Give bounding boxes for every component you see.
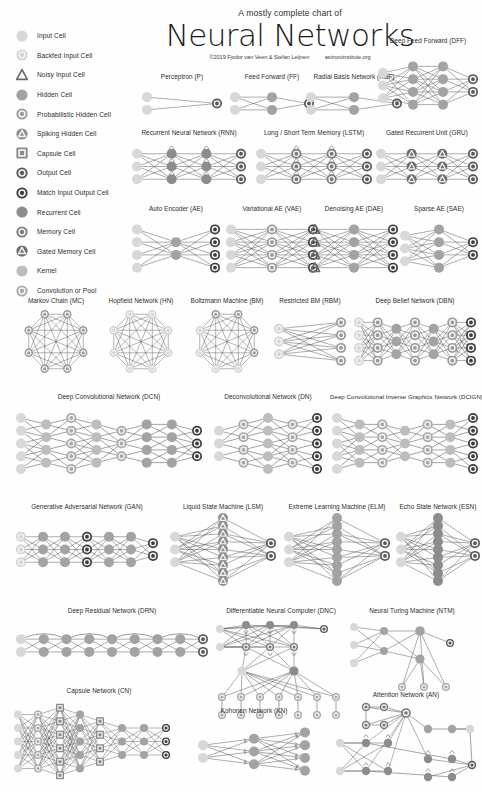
network-diagram [374, 137, 480, 196]
legend-item-noisy: Noisy Input Cell [14, 65, 144, 85]
network-cn: Capsule Network (CN) [10, 686, 188, 788]
network-title: Generative Adversarial Network (GAN) [14, 502, 160, 511]
network-diagram [196, 715, 312, 788]
network-p: Perceptron (P) [140, 72, 224, 126]
output-cell-icon [14, 165, 30, 181]
network-title: Variational AE (VAE) [224, 204, 320, 213]
memory-cell-icon [14, 224, 30, 240]
network-dbn: Deep Belief Network (DBN) [352, 296, 478, 378]
backfed-cell-icon [14, 47, 30, 63]
network-diagram [352, 305, 478, 378]
network-rbm: Restricted BM (RBM) [272, 296, 348, 378]
network-diagram [130, 213, 222, 284]
gated-cell-icon [14, 243, 30, 259]
network-title: Deep Convolutional Network (DCN) [14, 392, 204, 401]
network-elm: Extreme Learning Machine (ELM) [282, 502, 392, 588]
network-kn: Kohonen Network (KN) [196, 706, 312, 788]
network-title: Boltzmann Machine (BM) [184, 296, 270, 305]
network-diagram [330, 401, 480, 486]
network-rnn: Recurrent Neural Network (RNN) [130, 128, 248, 196]
network-title: Deconvolutional Network (DN) [212, 392, 324, 401]
network-diagram [376, 45, 480, 126]
match-cell-icon [14, 185, 30, 201]
chart-canvas: A mostly complete chart of Neural Networ… [0, 0, 482, 792]
network-diagram [130, 137, 248, 196]
network-title: Sparse AE (SAE) [398, 204, 480, 213]
network-dcign: Deep Convolutional Inverse Graphics Netw… [330, 392, 480, 486]
prob_hidden-cell-icon [14, 106, 30, 122]
network-title: Deep Belief Network (DBN) [352, 296, 478, 305]
network-title: Feed Forward (FF) [228, 72, 316, 81]
network-title: Liquid State Machine (LSM) [168, 502, 278, 511]
copyright-text: ©2019 Fjodor van Veen & Stefan Leijnen [209, 54, 309, 60]
network-diagram [398, 213, 480, 284]
hidden-cell-icon [14, 87, 30, 103]
network-hn: Hopfield Network (HN) [98, 296, 184, 378]
network-gan: Generative Adversarial Network (GAN) [14, 502, 160, 588]
legend-item-label: Memory Cell [37, 228, 75, 235]
network-diagram [272, 305, 348, 378]
network-lstm: Long / Short Term Memory (LSTM) [254, 128, 374, 196]
network-diagram [282, 511, 392, 588]
network-dnc: Differentiable Neural Computer (DNC) [212, 606, 350, 716]
network-dff: Deep Feed Forward (DFF) [376, 36, 480, 126]
network-title: Hopfield Network (HN) [98, 296, 184, 305]
network-title: Neural Turing Machine (NTM) [346, 606, 478, 615]
network-title: Capsule Network (CN) [10, 686, 188, 695]
network-title: Markov Chain (MC) [14, 296, 98, 305]
network-mc: Markov Chain (MC) [14, 296, 98, 378]
legend-item-label: Backfed Input Cell [37, 52, 92, 59]
network-sae: Sparse AE (SAE) [398, 204, 480, 284]
network-esn: Echo State Network (ESN) [394, 502, 482, 588]
network-an: Attention Network (AN) [332, 690, 480, 788]
legend-item-spiking: Spiking Hidden Cell [14, 124, 144, 144]
network-diagram [332, 699, 480, 788]
network-title: Deep Feed Forward (DFF) [376, 36, 480, 45]
network-dcn: Deep Convolutional Network (DCN) [14, 392, 204, 486]
legend-item-label: Match Input Output Cell [37, 189, 109, 196]
network-gru: Gated Recurrent Unit (GRU) [374, 128, 480, 196]
network-title: Long / Short Term Memory (LSTM) [254, 128, 374, 137]
legend-item-backfed: Backfed Input Cell [14, 46, 144, 66]
legend-item-label: Noisy Input Cell [37, 71, 85, 78]
network-diagram [308, 213, 400, 284]
legend-item-prob_hidden: Probabilistic Hidden Cell [14, 104, 144, 124]
network-diagram [212, 615, 350, 716]
network-title: Attention Network (AN) [332, 690, 480, 699]
legend-item-label: Output Cell [37, 169, 71, 176]
network-diagram [212, 401, 324, 486]
network-diagram [224, 213, 320, 284]
network-diagram [14, 511, 160, 588]
legend-item-label: Gated Memory Cell [37, 248, 96, 255]
network-ff: Feed Forward (FF) [228, 72, 316, 126]
legend-item-recurrent: Recurrent Cell [14, 202, 144, 222]
network-title: Denoising AE (DAE) [308, 204, 400, 213]
network-title: Recurrent Neural Network (RNN) [130, 128, 248, 137]
legend-item-label: Hidden Cell [37, 91, 72, 98]
network-title: Differentiable Neural Computer (DNC) [212, 606, 350, 615]
legend-item-kernel: Kernel [14, 261, 144, 281]
network-diagram [10, 695, 188, 788]
network-title: Gated Recurrent Unit (GRU) [374, 128, 480, 137]
legend-item-gated: Gated Memory Cell [14, 242, 144, 262]
input-cell-icon [14, 28, 30, 44]
spiking-cell-icon [14, 126, 30, 142]
legend-item-label: Probabilistic Hidden Cell [37, 111, 111, 118]
website-url: asimovinstitute.org [325, 54, 371, 60]
network-bm: Boltzmann Machine (BM) [184, 296, 270, 378]
network-ae: Auto Encoder (AE) [130, 204, 222, 284]
network-diagram [254, 137, 374, 196]
legend-item-label: Convolution or Pool [37, 287, 96, 294]
legend-item-input: Input Cell [14, 26, 144, 46]
legend-item-label: Capsule Cell [37, 150, 76, 157]
legend-item-label: Input Cell [37, 32, 66, 39]
network-diagram [14, 615, 210, 676]
legend-item-label: Recurrent Cell [37, 209, 81, 216]
network-diagram [14, 305, 98, 378]
legend-item-label: Spiking Hidden Cell [37, 130, 96, 137]
network-drn: Deep Residual Network (DRN) [14, 606, 210, 676]
network-diagram [394, 511, 482, 588]
legend-item-capsule: Capsule Cell [14, 144, 144, 164]
network-title: Deep Convolutional Inverse Graphics Netw… [330, 392, 480, 401]
network-title: Deep Residual Network (DRN) [14, 606, 210, 615]
